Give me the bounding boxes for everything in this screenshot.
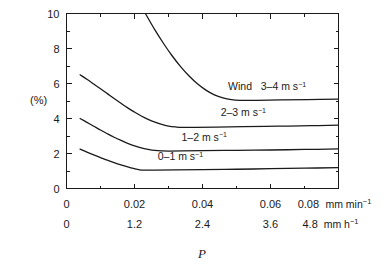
axes (67, 14, 339, 189)
series-label-2: 2–3 m s−1 (221, 106, 266, 118)
x-tick-label-primary: 0.04 (192, 198, 213, 210)
series-label-range-2: 2–3 m s (221, 106, 258, 118)
y-tick-label: 10 (47, 8, 59, 20)
x-unit-primary-exponent: −1 (363, 197, 372, 206)
x-tick-label-secondary: 3.6 (263, 218, 278, 230)
data-curves (80, 14, 338, 171)
series-label-exponent-0: −1 (195, 151, 203, 158)
x-unit-secondary: mm h (321, 218, 350, 230)
series-label-0: 0–1 m s−1 (158, 150, 203, 162)
x-tick-label-primary: 0 (63, 198, 69, 210)
x-tick-label-secondary: 1.2 (127, 218, 142, 230)
series-label-range-3: 3–4 m s (261, 80, 298, 92)
x-tick-label-secondary: 4.8 mm h−1 (302, 217, 358, 230)
x-unit-secondary-exponent: −1 (350, 217, 359, 226)
x-tick-label-primary: 0.08 mm min−1 (298, 197, 372, 210)
series-label-exponent-2: −1 (258, 107, 266, 114)
series-label-range-1: 1–2 m s (182, 131, 219, 143)
y-tick-label: 0 (53, 183, 59, 195)
series-label-prefix-3: Wind (228, 80, 261, 92)
plot-frame (67, 14, 339, 189)
x-tick-label-secondary: 0 (63, 218, 69, 230)
series-label-exponent-1: −1 (219, 131, 227, 138)
series-label-1: 1–2 m s−1 (182, 131, 227, 143)
series-curve-0 (80, 149, 338, 170)
tick-labels: 024681000.020.040.060.08 mm min−101.22.4… (47, 8, 371, 231)
x-tick-label-secondary: 2.4 (195, 218, 210, 230)
y-tick-label: 8 (53, 43, 59, 55)
series-label-range-0: 0–1 m s (158, 150, 195, 162)
x-unit-primary: mm min (323, 198, 363, 210)
chart-figure: 0–1 m s−11–2 m s−12–3 m s−1Wind 3–4 m s−… (0, 0, 389, 271)
y-tick-label: 2 (53, 148, 59, 160)
series-label-3: Wind 3–4 m s−1 (228, 80, 306, 92)
chart-svg: 0–1 m s−11–2 m s−12–3 m s−1Wind 3–4 m s−… (0, 0, 389, 271)
y-axis-label: (%) (30, 94, 47, 106)
x-axis-title: P (197, 246, 206, 261)
series-label-exponent-3: −1 (298, 81, 306, 88)
x-tick-label-primary: 0.02 (124, 198, 145, 210)
x-tick-label-primary: 0.06 (260, 198, 281, 210)
y-tick-label: 4 (53, 113, 59, 125)
y-tick-label: 6 (53, 78, 59, 90)
